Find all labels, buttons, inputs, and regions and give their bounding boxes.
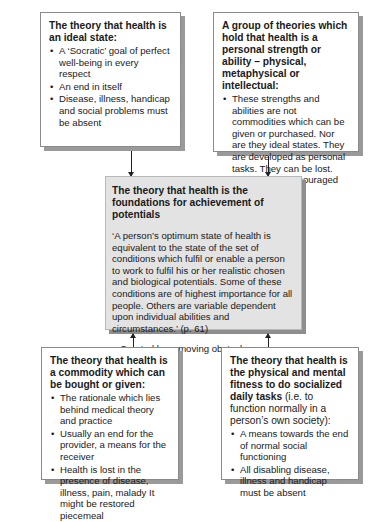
box-commodity: The theory that health is a commodity wh…: [41, 347, 179, 480]
bullet-icon: •: [50, 93, 53, 105]
list-item: •All disabling disease, illness and hand…: [230, 464, 350, 499]
box-title: The theory that health is the physical a…: [230, 355, 350, 427]
box-socialized-fitness: The theory that health is the physical a…: [221, 347, 359, 480]
list-item: •Disease, illness, handicap and social p…: [49, 93, 172, 128]
list-item: •Usually an end for the provider, a mean…: [50, 428, 170, 463]
box-ideal-state: The theory that health is an ideal state…: [40, 12, 181, 147]
list-item: •These strengths and abilities are not c…: [222, 93, 350, 186]
bullet-icon: •: [231, 464, 234, 476]
list-item: •Health is lost in the presence of disea…: [50, 464, 170, 522]
bullet-icon: •: [51, 428, 54, 440]
box-title: The theory that health is the foundation…: [112, 185, 295, 221]
bullet-icon: •: [50, 45, 53, 57]
arrow-up-right: [268, 334, 269, 347]
arrowhead-icon: [265, 333, 271, 338]
arrow-up-left: [133, 334, 134, 347]
bullet-list: •These strengths and abilities are not c…: [222, 93, 350, 186]
arrowhead-icon: [130, 333, 136, 338]
bullet-list: •The rationale which lies behind medical…: [50, 392, 170, 522]
bullet-icon: •: [51, 392, 54, 404]
box-foundations-for-potentials: The theory that health is the foundation…: [105, 176, 302, 330]
bullet-icon: •: [231, 428, 234, 440]
box-title: The theory that health is a commodity wh…: [50, 355, 170, 391]
bullet-icon: •: [51, 464, 54, 476]
quote-text: ‘A person’s optimum state of health is e…: [112, 230, 295, 334]
bullet-icon: •: [50, 81, 53, 93]
bullet-icon: •: [223, 93, 226, 105]
list-item: •An end in itself: [49, 81, 172, 93]
bullet-list: •A means towards the end of normal socia…: [230, 428, 350, 499]
list-item: •A ‘Socratic’ goal of perfect well-being…: [49, 45, 172, 80]
bullet-list: •A ‘Socratic’ goal of perfect well-being…: [49, 45, 172, 128]
list-item: •A means towards the end of normal socia…: [230, 428, 350, 463]
list-item: •The rationale which lies behind medical…: [50, 392, 170, 427]
arrow-down-right: [268, 156, 269, 176]
box-title: The theory that health is an ideal state…: [49, 20, 172, 44]
box-personal-strength: A group of theories which hold that heal…: [213, 12, 359, 152]
arrow-down-left: [131, 151, 132, 176]
box-title: A group of theories which hold that heal…: [222, 20, 350, 92]
